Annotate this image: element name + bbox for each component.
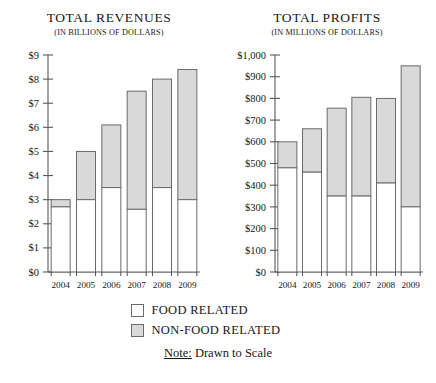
note-text: Drawn to Scale <box>192 346 272 360</box>
chart-legend: FOOD RELATED NON-FOOD RELATED Note: Draw… <box>0 300 436 383</box>
legend-row-nonfood: NON-FOOD RELATED <box>0 323 436 338</box>
x-axis-year-label: 2007 <box>352 280 371 290</box>
bar-segment-food <box>178 200 197 272</box>
bar-segment-food <box>51 207 70 272</box>
y-tick-label: $9 <box>29 50 40 61</box>
bar-segment-nonfood <box>178 69 197 199</box>
y-tick-label: $3 <box>29 194 40 205</box>
bar-segment-nonfood <box>153 79 172 188</box>
bar-segment-nonfood <box>401 66 420 207</box>
bar-segment-food <box>153 188 172 272</box>
bar-segment-nonfood <box>327 108 346 196</box>
y-tick-label: $8 <box>29 74 40 85</box>
y-tick-label: $400 <box>245 180 266 191</box>
x-axis-year-label: 2008 <box>153 280 172 290</box>
y-tick-label: $200 <box>245 223 266 234</box>
bar-segment-nonfood <box>377 98 396 183</box>
x-axis-year-label: 2006 <box>327 280 346 290</box>
y-tick-label: $0 <box>256 267 267 278</box>
y-tick-label: $600 <box>245 136 266 147</box>
legend-label-food: FOOD RELATED <box>152 303 248 318</box>
bar-segment-food <box>352 196 371 272</box>
bar-segment-food <box>278 168 297 272</box>
chart-subtitle-revenues: (IN BILLIONS OF DOLLARS) <box>0 28 218 37</box>
y-tick-label: $300 <box>245 202 266 213</box>
bar-segment-nonfood <box>51 200 70 207</box>
y-tick-label: $900 <box>245 71 266 82</box>
bar-segment-nonfood <box>127 91 146 209</box>
bar-segment-food <box>303 172 322 272</box>
bar-segment-nonfood <box>278 142 297 168</box>
bar-segment-nonfood <box>77 151 96 199</box>
y-tick-label: $500 <box>245 158 266 169</box>
y-tick-label: $4 <box>29 170 40 181</box>
legend-swatch-nonfood-icon <box>131 324 144 337</box>
x-axis-year-label: 2008 <box>377 280 396 290</box>
y-tick-label: $100 <box>245 245 266 256</box>
x-axis-year-label: 2007 <box>127 280 146 290</box>
y-tick-label: $6 <box>29 122 40 133</box>
bar-segment-food <box>127 209 146 272</box>
note-label: Note: <box>164 346 192 360</box>
plot-area-revenues: $0$1$2$3$4$5$6$7$8$920042005200620072008… <box>0 42 218 292</box>
chart-total-revenues: TOTAL REVENUES (IN BILLIONS OF DOLLARS) … <box>0 0 218 300</box>
plot-area-profits: $0$100$200$300$400$500$600$700$800$900$1… <box>218 42 436 292</box>
legend-label-nonfood: NON-FOOD RELATED <box>152 323 281 338</box>
chart-total-profits: TOTAL PROFITS (IN MILLIONS OF DOLLARS) $… <box>218 0 436 300</box>
legend-swatch-food-icon <box>131 304 144 317</box>
chart-subtitle-profits: (IN MILLIONS OF DOLLARS) <box>218 28 436 37</box>
chart-title-profits: TOTAL PROFITS <box>218 10 436 26</box>
bar-segment-nonfood <box>352 97 371 196</box>
x-axis-year-label: 2004 <box>278 280 297 290</box>
chart-title-revenues: TOTAL REVENUES <box>0 10 218 26</box>
chart-page: TOTAL REVENUES (IN BILLIONS OF DOLLARS) … <box>0 0 436 383</box>
bar-segment-nonfood <box>102 125 121 188</box>
x-axis-year-label: 2004 <box>51 280 70 290</box>
x-axis-year-label: 2006 <box>102 280 121 290</box>
bar-segment-food <box>401 207 420 272</box>
charts-row: TOTAL REVENUES (IN BILLIONS OF DOLLARS) … <box>0 0 436 300</box>
chart-note: Note: Drawn to Scale <box>0 346 436 361</box>
bar-segment-nonfood <box>303 129 322 172</box>
y-tick-label: $1 <box>29 242 40 253</box>
bar-segment-food <box>77 200 96 272</box>
y-tick-label: $0 <box>29 267 40 278</box>
revenues-svg: $0$1$2$3$4$5$6$7$8$920042005200620072008… <box>0 42 218 292</box>
y-tick-label: $2 <box>29 218 40 229</box>
legend-row-food: FOOD RELATED <box>0 303 436 318</box>
x-axis-year-label: 2005 <box>77 280 96 290</box>
x-axis-year-label: 2009 <box>178 280 197 290</box>
x-axis-year-label: 2005 <box>303 280 322 290</box>
y-tick-label: $1,000 <box>237 50 266 61</box>
y-tick-label: $800 <box>245 93 266 104</box>
bar-segment-food <box>327 196 346 272</box>
profits-svg: $0$100$200$300$400$500$600$700$800$900$1… <box>218 42 436 292</box>
bar-segment-food <box>377 183 396 272</box>
y-tick-label: $7 <box>29 98 40 109</box>
y-tick-label: $5 <box>29 146 40 157</box>
x-axis-year-label: 2009 <box>401 280 420 290</box>
bar-segment-food <box>102 188 121 272</box>
y-tick-label: $700 <box>245 115 266 126</box>
